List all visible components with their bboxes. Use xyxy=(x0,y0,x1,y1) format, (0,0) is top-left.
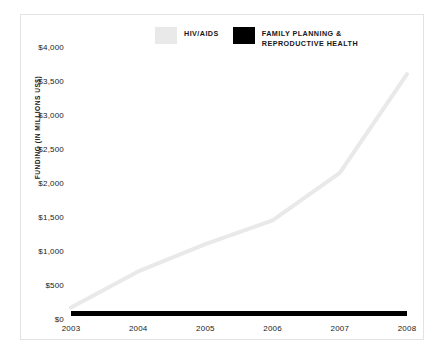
y-tick-label: $2,000 xyxy=(18,179,64,188)
y-tick-label: $500 xyxy=(18,281,64,290)
y-tick-label: $0 xyxy=(18,315,64,324)
y-tick-label: $1,500 xyxy=(18,213,64,222)
legend-item-family-planning: FAMILY PLANNING & REPRODUCTIVE HEALTH xyxy=(233,26,358,48)
x-tick-label: 2008 xyxy=(398,324,417,333)
x-tick-label: 2007 xyxy=(330,324,349,333)
y-axis-tick-labels: $0$500$1,000$1,500$2,000$2,500$3,000$3,5… xyxy=(18,47,64,319)
series-canvas xyxy=(71,47,407,319)
legend-swatch-hiv-aids xyxy=(155,27,177,44)
legend-label-hiv-aids: HIV/AIDS xyxy=(184,26,219,39)
legend-item-hiv-aids: HIV/AIDS xyxy=(155,26,219,44)
legend-label-family-planning: FAMILY PLANNING & REPRODUCTIVE HEALTH xyxy=(262,26,358,48)
y-tick-label: $3,000 xyxy=(18,111,64,120)
legend-swatch-family-planning xyxy=(233,27,255,44)
x-tick-label: 2006 xyxy=(263,324,282,333)
plot-area xyxy=(71,47,407,319)
chart-figure: HIV/AIDS FAMILY PLANNING & REPRODUCTIVE … xyxy=(0,0,441,361)
x-tick-label: 2005 xyxy=(196,324,215,333)
x-tick-label: 2003 xyxy=(62,324,81,333)
y-tick-label: $2,500 xyxy=(18,145,64,154)
y-tick-label: $4,000 xyxy=(18,43,64,52)
series-line-hiv-aids xyxy=(71,74,407,307)
chart-legend: HIV/AIDS FAMILY PLANNING & REPRODUCTIVE … xyxy=(155,26,358,48)
y-tick-label: $3,500 xyxy=(18,77,64,86)
x-tick-label: 2004 xyxy=(129,324,148,333)
y-tick-label: $1,000 xyxy=(18,247,64,256)
x-axis-tick-labels: 200320042005200620072008 xyxy=(71,324,407,338)
